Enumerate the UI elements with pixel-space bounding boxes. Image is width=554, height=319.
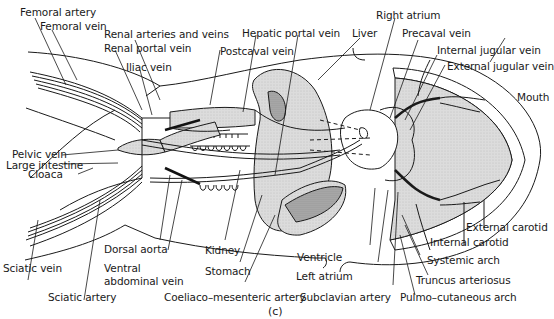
label-right-atrium: Right atrium	[376, 9, 440, 21]
label-pulmo-cutaneous-arch: Pulmo–cutaneous arch	[400, 291, 517, 303]
label-iliac-vein: Iliac vein	[126, 61, 172, 73]
label-ventral-abdominal-vein: Ventral abdominal vein	[104, 262, 184, 287]
label-postcaval-vein: Postcaval vein	[220, 45, 294, 57]
label-external-carotid: External carotid	[466, 221, 548, 233]
label-left-atrium: Left atrium	[296, 270, 353, 282]
label-internal-carotid: Internal carotid	[430, 236, 509, 248]
label-dorsal-aorta: Dorsal aorta	[104, 243, 168, 255]
label-internal-jugular-vein: Internal jugular vein	[437, 44, 541, 56]
label-femoral-artery: Femoral artery	[20, 6, 96, 18]
label-mouth: Mouth	[517, 91, 549, 103]
label-ventricle: Ventricle	[297, 251, 342, 263]
label-large-intestine: Large intestine	[6, 159, 83, 171]
label-truncus-arteriosus: Truncus arteriosus	[416, 274, 511, 286]
label-femoral-vein: Femoral vein	[40, 20, 107, 32]
figure-caption: (c)	[268, 305, 283, 318]
label-sciatic-artery: Sciatic artery	[48, 291, 116, 303]
label-external-jugular-vein: External jugular vein	[447, 60, 554, 72]
label-renal-arteries-veins: Renal arteries and veins	[104, 28, 229, 40]
label-systemic-arch: Systemic arch	[427, 254, 500, 266]
label-coeliaco-mesenteric-artery: Coeliaco–mesenteric artery	[164, 291, 305, 303]
label-kidney: Kidney	[205, 244, 240, 256]
label-liver: Liver	[352, 27, 377, 39]
label-precaval-vein: Precaval vein	[402, 27, 471, 39]
label-sciatic-vein: Sciatic vein	[3, 262, 62, 274]
label-stomach: Stomach	[205, 265, 251, 277]
label-hepatic-portal-vein: Hepatic portal vein	[242, 27, 340, 39]
label-subclavian-artery: Subclavian artery	[300, 291, 391, 303]
label-renal-portal-vein: Renal portal vein	[104, 42, 191, 54]
